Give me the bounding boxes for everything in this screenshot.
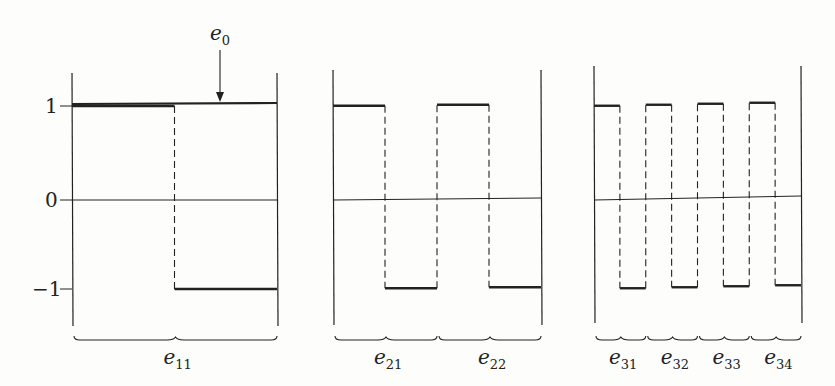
brace-e33: e33 bbox=[700, 336, 750, 372]
basis-label: e21 bbox=[374, 345, 402, 372]
right-boundary bbox=[277, 73, 278, 326]
brace-e11: e11 bbox=[74, 336, 277, 372]
y-tick-1: 0 bbox=[45, 188, 72, 212]
brace-e32: e32 bbox=[648, 336, 698, 372]
square-wave-diagram: 10−1e11e21e22e31e32e33e34e0 bbox=[0, 0, 835, 386]
left-boundary bbox=[333, 70, 334, 325]
brace-e31: e31 bbox=[596, 336, 646, 372]
basis-label: e34 bbox=[764, 345, 792, 372]
right-boundary bbox=[541, 70, 542, 325]
basis-label: e32 bbox=[661, 345, 689, 372]
basis-label: e22 bbox=[478, 345, 506, 372]
y-tick-2: −1 bbox=[32, 277, 72, 301]
basis-label: e11 bbox=[164, 345, 192, 372]
e0-constant-line bbox=[72, 103, 277, 104]
brace-e34: e34 bbox=[751, 336, 801, 372]
basis-label: e33 bbox=[712, 345, 740, 372]
svg-text:1: 1 bbox=[45, 94, 58, 118]
panel-level-2: e21e22 bbox=[333, 70, 542, 372]
panel-level-3: e31e32e33e34 bbox=[594, 66, 802, 372]
brace-e22: e22 bbox=[439, 336, 541, 372]
svg-text:−1: −1 bbox=[32, 277, 61, 301]
y-tick-0: 1 bbox=[45, 94, 72, 118]
arrow-down-icon bbox=[216, 92, 224, 102]
basis-label: e31 bbox=[609, 345, 637, 372]
right-boundary bbox=[801, 66, 802, 323]
e0-annotation: e0 bbox=[72, 21, 277, 104]
panel-level-1: e11 bbox=[72, 73, 278, 372]
svg-text:0: 0 bbox=[45, 188, 58, 212]
brace-e21: e21 bbox=[335, 336, 437, 372]
svg-text:e0: e0 bbox=[210, 21, 230, 48]
